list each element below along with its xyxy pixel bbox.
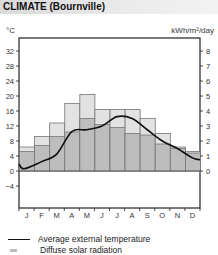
svg-text:12: 12 (6, 122, 14, 131)
svg-text:D: D (190, 211, 196, 220)
diffuse-bar (155, 144, 170, 171)
legend-temperature: Average external temperature (8, 234, 150, 244)
svg-text:4: 4 (206, 107, 210, 116)
svg-text:A: A (130, 211, 135, 220)
svg-text:4: 4 (10, 152, 14, 161)
svg-text:S: S (145, 211, 150, 220)
diffuse-bar (125, 134, 140, 172)
svg-text:−4: −4 (5, 182, 14, 191)
svg-text:24: 24 (6, 77, 14, 86)
svg-text:5: 5 (206, 92, 210, 101)
svg-text:28: 28 (6, 62, 14, 71)
svg-text:6: 6 (206, 77, 210, 86)
svg-text:M: M (84, 211, 90, 220)
svg-text:20: 20 (6, 92, 14, 101)
svg-text:0: 0 (10, 167, 14, 176)
svg-text:J: J (115, 211, 119, 220)
diffuse-swatch-icon (10, 249, 17, 252)
svg-text:F: F (39, 211, 44, 220)
svg-text:N: N (175, 211, 180, 220)
legend-diffuse: Diffuse solar radiation (8, 245, 122, 255)
svg-text:0: 0 (206, 167, 210, 176)
line-swatch-icon (8, 239, 30, 240)
svg-text:O: O (159, 211, 165, 220)
legend-label-temperature: Average external temperature (38, 234, 150, 244)
svg-text:1: 1 (206, 152, 210, 161)
diffuse-bar (95, 125, 110, 172)
svg-text:3: 3 (206, 122, 210, 131)
svg-text:M: M (54, 211, 60, 220)
legend-label-diffuse: Diffuse solar radiation (40, 245, 122, 255)
svg-text:J: J (100, 211, 104, 220)
svg-text:2: 2 (206, 137, 210, 146)
diffuse-bar (35, 146, 50, 172)
diffuse-bar (80, 119, 95, 172)
diffuse-bar (140, 135, 155, 171)
svg-text:J: J (25, 211, 29, 220)
svg-text:16: 16 (6, 107, 14, 116)
svg-text:7: 7 (206, 62, 210, 71)
svg-text:A: A (69, 211, 74, 220)
svg-text:8: 8 (206, 47, 210, 56)
diffuse-bar (110, 128, 125, 172)
svg-text:8: 8 (10, 137, 14, 146)
svg-text:32: 32 (6, 47, 14, 56)
